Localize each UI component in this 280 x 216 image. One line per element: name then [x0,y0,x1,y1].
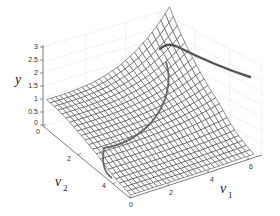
svg-text:2: 2 [63,183,68,193]
v1-tick-0: 0 [129,201,133,208]
z-ticks [40,47,43,125]
svg-text:v: v [220,181,227,196]
v1-tick-2: 2 [169,189,173,196]
v1-tick-6: 6 [249,163,253,170]
surface-plot: 3 2.5 2 1.5 1 0.5 0 0 2 4 0 2 4 6 y v 2 … [0,0,280,216]
v2-tick-2: 2 [67,155,71,162]
svg-text:1: 1 [228,190,233,200]
v1-axis-label: v 1 [220,181,233,200]
z-tick-2: 2 [34,69,38,76]
z-tick-3: 3 [34,43,38,50]
mesh-surface [47,7,254,195]
z-tick-1-5: 1.5 [28,82,38,89]
z-tick-0-5: 0.5 [28,108,38,115]
svg-text:v: v [55,174,62,189]
v2-tick-0: 0 [36,128,40,135]
v2-axis-label: v 2 [55,174,68,193]
z-tick-2-5: 2.5 [28,56,38,63]
z-tick-1: 1 [34,95,38,102]
v1-tick-4: 4 [210,176,214,183]
v2-tick-4: 4 [102,182,106,189]
z-axis-label: y [13,72,22,87]
z-tick-0: 0 [34,119,38,126]
